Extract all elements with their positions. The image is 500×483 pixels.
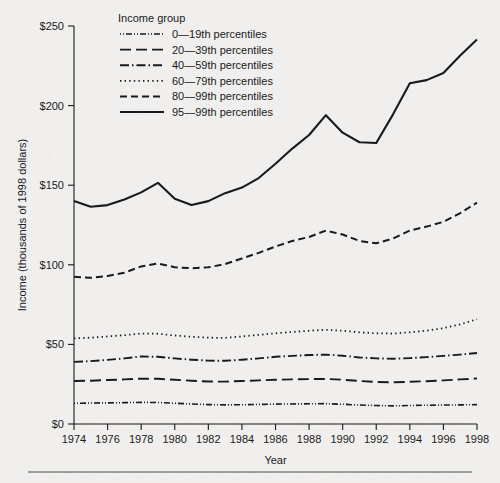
y-tick-label: $100 [40, 259, 64, 271]
y-tick-label: $50 [46, 338, 64, 350]
x-tick-label: 1990 [330, 433, 354, 445]
legend-label-0: 0—19th percentiles [172, 28, 267, 40]
series-line-4 [74, 203, 477, 278]
x-tick-label: 1996 [431, 433, 455, 445]
x-tick-label: 1998 [465, 433, 489, 445]
legend-label-3: 60—79th percentiles [172, 75, 273, 87]
plot-axes [74, 26, 477, 424]
series-line-3 [74, 319, 477, 338]
x-tick-label: 1982 [196, 433, 220, 445]
y-tick-label: $150 [40, 179, 64, 191]
y-tick-label: $250 [40, 20, 64, 32]
x-tick-label: 1978 [129, 433, 153, 445]
series-line-5 [74, 40, 477, 207]
y-tick-label: $200 [40, 100, 64, 112]
chart-figure: $0$50$100$150$200$2501974197619781980198… [0, 0, 500, 483]
legend-label-5: 95—99th percentiles [172, 106, 273, 118]
legend-title: Income group [118, 12, 185, 24]
x-axis-title: Year [264, 454, 287, 466]
series-line-1 [74, 378, 477, 382]
legend-label-1: 20—39th percentiles [172, 44, 273, 56]
y-axis-ticks [68, 26, 74, 424]
x-tick-label: 1992 [364, 433, 388, 445]
series-line-0 [74, 402, 477, 406]
x-tick-label: 1984 [230, 433, 254, 445]
income-percentile-line-chart: $0$50$100$150$200$2501974197619781980198… [0, 0, 500, 483]
x-tick-label: 1986 [263, 433, 287, 445]
x-tick-label: 1980 [163, 433, 187, 445]
series-line-2 [74, 353, 477, 362]
legend [120, 34, 164, 112]
x-tick-label: 1976 [95, 433, 119, 445]
x-tick-label: 1974 [62, 433, 86, 445]
x-tick-label: 1988 [297, 433, 321, 445]
y-tick-label: $0 [52, 418, 64, 430]
series-group [74, 40, 477, 406]
x-tick-label: 1994 [398, 433, 422, 445]
x-axis-ticks [74, 424, 477, 430]
legend-label-4: 80—99th percentiles [172, 90, 273, 102]
y-axis-title: Income (thousands of 1998 dollars) [16, 139, 28, 311]
legend-label-2: 40—59th percentiles [172, 59, 273, 71]
